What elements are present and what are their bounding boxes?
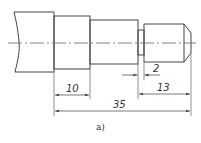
dim-label-35: 35 (113, 99, 126, 110)
dim-label-13: 13 (157, 82, 170, 93)
shaft-section-2 (54, 16, 90, 69)
shaft-section-1 (14, 12, 54, 72)
dim-label-2: 2 (153, 63, 159, 74)
shaft-section-3 (90, 20, 138, 64)
dim-label-10: 10 (66, 83, 79, 94)
shaft-drawing: 10 2 13 35 a) (0, 0, 201, 143)
figure-caption: a) (96, 122, 105, 132)
shaft-groove (138, 30, 144, 55)
